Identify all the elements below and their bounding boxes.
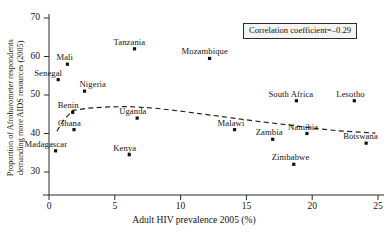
- data-point-marker: [233, 128, 236, 131]
- data-point-label: Zambia: [256, 128, 283, 137]
- data-point-marker: [57, 78, 60, 81]
- y-tick-label: 50: [12, 90, 40, 100]
- data-point-label: Benin: [58, 101, 79, 110]
- data-point-marker: [66, 63, 69, 66]
- x-tick-label: 10: [166, 202, 196, 212]
- tick-marks: [44, 18, 378, 200]
- data-point-label: Namibia: [288, 123, 318, 132]
- data-point-label: Tanzania: [114, 38, 146, 47]
- x-tick-label: 15: [231, 202, 261, 212]
- data-point-label: South Africa: [268, 90, 313, 99]
- data-point-label: Botswana: [343, 132, 378, 141]
- data-point-marker: [208, 57, 211, 60]
- data-point-marker: [71, 111, 74, 114]
- data-point-marker: [305, 132, 308, 135]
- data-point-marker: [295, 99, 298, 102]
- axes: [43, 14, 384, 195]
- data-point-marker: [54, 149, 57, 152]
- y-tick-label: 30: [12, 167, 40, 177]
- data-point-label: Senegal: [34, 69, 62, 78]
- correlation-coefficient-box: Correlation coefficient=–0.29: [243, 23, 357, 39]
- x-axis-title: Adult HIV prevalence 2005 (%): [0, 214, 388, 225]
- data-point-label: Kenya: [113, 144, 136, 153]
- data-point-label: Nigeria: [80, 80, 106, 89]
- data-point-marker: [72, 128, 75, 131]
- data-point-marker: [365, 142, 368, 145]
- data-point-label: Mali: [56, 53, 73, 62]
- scatter-chart: Proportion of Afrobarometer respondents …: [0, 0, 388, 232]
- y-tick-label: 70: [12, 13, 40, 23]
- data-point-label: Zimbabwe: [272, 153, 310, 162]
- data-point-label: Malawi: [218, 119, 245, 128]
- y-tick-label: 40: [12, 129, 40, 139]
- data-point-marker: [292, 163, 295, 166]
- x-tick-label: 20: [297, 202, 327, 212]
- data-point-label: Mozambique: [182, 47, 228, 56]
- trend-line: [57, 107, 375, 134]
- data-point-label: Uganda: [119, 107, 146, 116]
- x-tick-label: 5: [100, 202, 130, 212]
- data-point-label: Lesotho: [336, 90, 364, 99]
- x-tick-label: 25: [363, 202, 388, 212]
- x-tick-label: 0: [34, 202, 64, 212]
- data-point-marker: [271, 138, 274, 141]
- data-point-marker: [128, 153, 131, 156]
- y-tick-label: 60: [12, 52, 40, 62]
- data-point-marker: [133, 47, 136, 50]
- data-markers: [54, 47, 368, 166]
- data-point-label: Ghana: [58, 119, 81, 128]
- data-point-marker: [83, 90, 86, 93]
- data-point-marker: [353, 99, 356, 102]
- data-point-marker: [136, 117, 139, 120]
- data-point-label: Madagascar: [25, 140, 68, 149]
